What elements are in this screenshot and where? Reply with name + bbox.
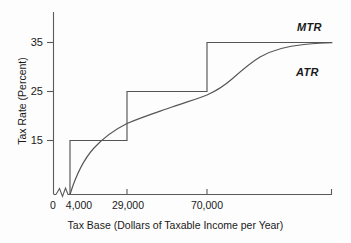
- x-axis-break-zigzag: [56, 188, 70, 197]
- x-tick-label-70000: 70,000: [180, 199, 234, 211]
- series-label-mtr: MTR: [297, 21, 322, 33]
- x-tick-label-29000: 29,000: [101, 199, 155, 211]
- chart-figure: 35 25 15 0 4,000 29,000 70,000 MTR ATR T…: [0, 0, 351, 243]
- atr-curve-series: [70, 43, 332, 195]
- mtr-step-series: [70, 43, 332, 195]
- x-axis-title: Tax Base (Dollars of Taxable Income per …: [0, 219, 351, 231]
- y-axis-title: Tax Rate (Percent): [16, 31, 28, 171]
- x-tick-label-4000: 4,000: [55, 199, 103, 211]
- series-label-atr: ATR: [296, 66, 319, 78]
